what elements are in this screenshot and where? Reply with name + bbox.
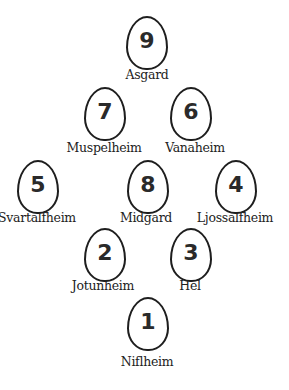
node-ljossalfheim: 4 bbox=[215, 160, 255, 212]
node-label: Asgard bbox=[92, 67, 202, 82]
node-niflheim: 1 bbox=[127, 297, 167, 349]
node-number: 8 bbox=[127, 172, 169, 197]
node-number: 2 bbox=[84, 240, 126, 265]
node-label: Vanaheim bbox=[140, 140, 250, 155]
node-number: 4 bbox=[215, 172, 257, 197]
node-label: Ljossalfheim bbox=[180, 210, 289, 225]
node-asgard: 9 bbox=[126, 16, 166, 68]
node-midgard: 8 bbox=[127, 160, 167, 212]
node-label: Hel bbox=[135, 278, 245, 293]
node-number: 1 bbox=[127, 309, 169, 334]
node-number: 5 bbox=[17, 172, 59, 197]
node-label: Svartalfheim bbox=[0, 210, 92, 225]
node-label: Niflheim bbox=[92, 354, 202, 369]
node-vanaheim: 6 bbox=[170, 87, 210, 139]
node-muspelheim: 7 bbox=[84, 87, 124, 139]
node-jotunheim: 2 bbox=[84, 228, 124, 280]
node-number: 6 bbox=[170, 99, 212, 124]
node-number: 3 bbox=[170, 240, 212, 265]
node-number: 9 bbox=[126, 28, 168, 53]
node-hel: 3 bbox=[170, 228, 210, 280]
node-number: 7 bbox=[84, 99, 126, 124]
node-svartalfheim: 5 bbox=[17, 160, 57, 212]
